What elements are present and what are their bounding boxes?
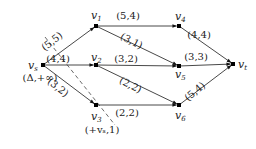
edge-v5-vt bbox=[179, 64, 231, 66]
node-label-vs: vs bbox=[28, 59, 38, 73]
flow-network-diagram: (5,5)(4,4)(3,2)(5,4)(3,1)(3,2)(2,2)(2,2)… bbox=[0, 0, 256, 149]
node-label-v2: v2 bbox=[91, 51, 102, 65]
node-label-vt: vt bbox=[238, 58, 247, 72]
node-label-v5: v5 bbox=[175, 68, 186, 82]
edge-label: (4,4) bbox=[187, 29, 211, 40]
node-vs bbox=[41, 63, 45, 67]
node-v4 bbox=[177, 24, 181, 28]
edge-label: (4,4) bbox=[46, 53, 70, 64]
node-annotation-v3: (+vₛ,1) bbox=[85, 124, 120, 135]
node-v3 bbox=[94, 103, 98, 107]
edge-label: (5,4) bbox=[116, 10, 140, 21]
edge-label: (3,3) bbox=[184, 51, 208, 62]
diagram-svg: (5,5)(4,4)(3,2)(5,4)(3,1)(3,2)(2,2)(2,2)… bbox=[0, 0, 256, 149]
edge-label: (2,2) bbox=[118, 75, 144, 96]
node-label-v6: v6 bbox=[175, 109, 186, 123]
node-vt bbox=[231, 62, 235, 66]
node-v1 bbox=[94, 24, 98, 28]
node-label-v3: v3 bbox=[91, 110, 102, 124]
edge-label: (3,1) bbox=[119, 31, 145, 52]
edge-label: (3,2) bbox=[114, 53, 138, 64]
edge-label: (5,4) bbox=[182, 79, 207, 103]
edge-v2-v5 bbox=[96, 65, 177, 66]
edge-label: (2,2) bbox=[115, 107, 139, 118]
node-v6 bbox=[177, 103, 181, 107]
node-label-v1: v1 bbox=[91, 9, 102, 23]
edge-label: (5,5) bbox=[39, 30, 65, 53]
node-annotation-vs: (Δ,+∞) bbox=[23, 72, 58, 83]
node-label-v4: v4 bbox=[175, 10, 186, 24]
